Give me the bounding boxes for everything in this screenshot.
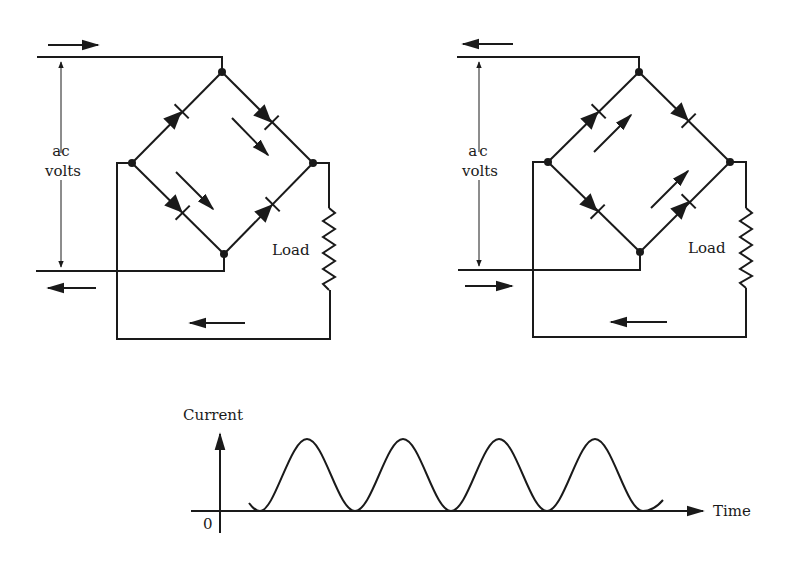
load-label: Load <box>688 239 726 257</box>
load-wire <box>313 163 329 208</box>
node-top <box>635 68 643 76</box>
load-wire <box>730 162 746 208</box>
volts-label: volts <box>44 162 81 180</box>
input-wire-top <box>457 57 639 72</box>
rectified-waveform <box>249 439 663 511</box>
volts-label: volts <box>461 162 498 180</box>
ac-label: ac <box>52 142 69 160</box>
load-label: Load <box>272 241 310 259</box>
circuit-right: ac volts Load <box>457 44 752 337</box>
current-time-graph: Current Time 0 <box>183 406 751 533</box>
input-wire-bottom <box>458 252 640 270</box>
current-arrow-icon <box>232 118 268 155</box>
node-top <box>218 68 226 76</box>
current-arrow-icon <box>651 171 688 208</box>
input-wire-top <box>37 57 222 72</box>
input-wire-bottom <box>36 254 224 271</box>
node-bottom <box>220 250 228 258</box>
origin-label: 0 <box>203 515 213 533</box>
diode-icon <box>669 194 696 221</box>
bridge-rectifier-figure: ac volts Load <box>0 0 789 563</box>
resistor-icon <box>740 208 752 288</box>
node-bottom <box>636 248 644 256</box>
current-arrow-icon <box>176 172 213 209</box>
x-axis-label: Time <box>713 502 751 520</box>
current-arrow-icon <box>594 115 631 152</box>
circuit-left: ac volts Load <box>36 45 335 339</box>
y-axis-label: Current <box>183 406 243 424</box>
resistor-icon <box>323 208 335 290</box>
ac-label: ac <box>468 142 489 160</box>
